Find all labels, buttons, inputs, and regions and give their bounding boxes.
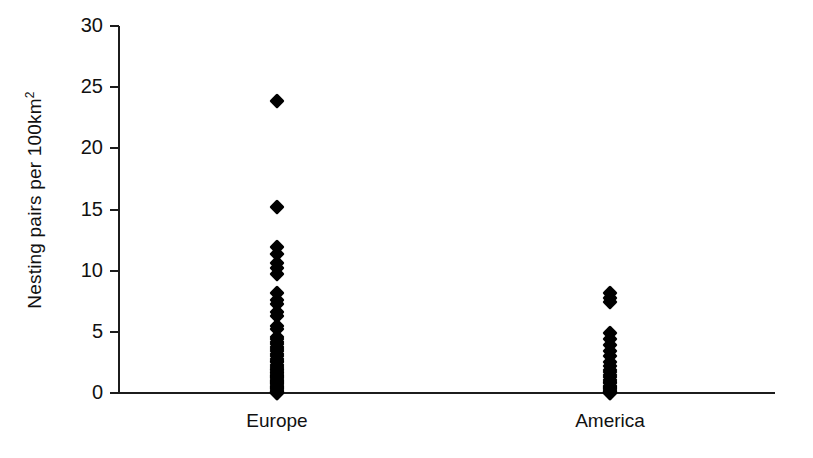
y-axis-tick-label: 25 [3, 76, 103, 96]
y-axis-tick-label-wrap: 15 [0, 199, 103, 219]
y-axis-tick-label: 20 [3, 137, 103, 157]
y-axis-tick [110, 86, 119, 88]
y-axis-tick [110, 209, 119, 211]
x-axis-line [118, 392, 775, 394]
y-axis-tick-label-wrap: 25 [0, 76, 103, 96]
y-axis-tick [110, 25, 119, 27]
y-axis-tick-label-wrap: 10 [0, 260, 103, 280]
y-axis-tick-label-wrap: 20 [0, 137, 103, 157]
data-point-marker [269, 199, 285, 215]
x-axis-category-label-europe: Europe [177, 410, 377, 432]
y-axis-tick-label: 5 [3, 321, 103, 341]
plot-area: 051015202530 Europe America [0, 0, 813, 458]
y-axis-tick-label: 15 [3, 199, 103, 219]
y-axis-tick [110, 331, 119, 333]
x-axis-category-label-america: America [510, 410, 710, 432]
y-axis-tick-label-wrap: 30 [0, 15, 103, 35]
y-axis-tick [110, 392, 119, 394]
y-axis-tick-label: 30 [3, 15, 103, 35]
y-axis-tick [110, 147, 119, 149]
y-axis-tick-label: 10 [3, 260, 103, 280]
dot-plot-figure: Nesting pairs per 100km2 051015202530 Eu… [0, 0, 813, 458]
y-axis-tick [110, 270, 119, 272]
y-axis-tick-label-wrap: 5 [0, 321, 103, 341]
y-axis-tick-label: 0 [3, 382, 103, 402]
data-point-marker [269, 93, 285, 109]
y-axis-tick-label-wrap: 0 [0, 382, 103, 402]
